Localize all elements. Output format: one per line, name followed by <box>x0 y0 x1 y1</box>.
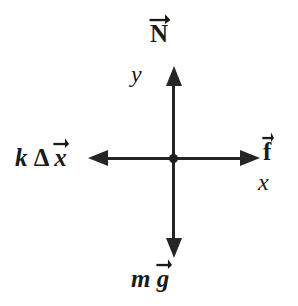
spring-constant-glyph: k <box>15 144 28 171</box>
applied-force-symbol-glyph: f <box>263 138 271 165</box>
normal-force-label: N <box>150 19 168 46</box>
x-axis-label: x <box>258 170 269 194</box>
origin-point-marker <box>169 154 178 163</box>
displacement-symbol-glyph: x <box>54 144 67 171</box>
arrowhead-down-icon <box>166 238 182 258</box>
spring-force-label: k Δ x <box>15 143 67 170</box>
displacement-vector-symbol: x <box>54 143 67 170</box>
normal-force-symbol-glyph: N <box>150 20 168 47</box>
applied-force-vector-symbol: f <box>263 137 271 164</box>
arrowhead-left-icon <box>88 150 108 166</box>
arrowhead-up-icon <box>166 66 182 86</box>
force-diagram-canvas: N f k Δ x m <box>0 0 298 306</box>
normal-force-vector-symbol: N <box>150 19 168 46</box>
y-axis-line <box>172 84 175 242</box>
mass-glyph: m <box>131 265 150 292</box>
y-axis-label: y <box>131 62 142 86</box>
gravity-vector-symbol: g <box>157 264 170 291</box>
delta-glyph: Δ <box>34 144 48 171</box>
arrowhead-right-icon <box>240 150 260 166</box>
applied-force-label: f <box>263 137 271 164</box>
gravity-symbol-glyph: g <box>157 265 170 292</box>
weight-force-label: m g <box>131 264 169 291</box>
